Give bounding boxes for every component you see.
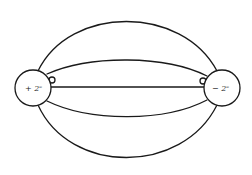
negative-charge: − 2ᵉ [204, 70, 240, 106]
field-line-outer-bottom [38, 105, 217, 158]
positive-charge: + 2ᵉ [15, 70, 51, 106]
field-line-outer-top [38, 22, 217, 72]
positive-charge-label: + 2ᵉ [25, 84, 42, 93]
field-lines [38, 22, 217, 158]
small-loops [49, 77, 206, 84]
negative-charge-label: − 2ᵉ [212, 84, 229, 93]
field-line-diagram: + 2ᵉ − 2ᵉ [0, 0, 252, 175]
field-line-inner-top [47, 60, 207, 76]
field-line-inner-bottom [47, 100, 207, 117]
